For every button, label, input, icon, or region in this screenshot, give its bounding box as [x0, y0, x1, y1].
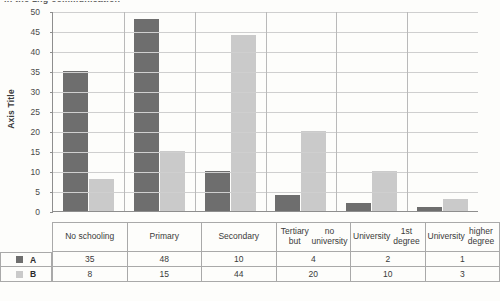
y-axis-tick-label: 30: [16, 87, 40, 97]
y-axis-tick-mark: [50, 12, 53, 13]
table-cell: 15: [127, 267, 202, 282]
chart-page: in the 1ng communication Axis Title 5045…: [0, 0, 500, 301]
y-axis-tick-mark: [50, 172, 53, 173]
category-header-cells: No schoolingPrimarySecondaryTertiary but…: [52, 222, 500, 252]
bar-series-b: [372, 171, 397, 211]
table-corner-cell: [0, 222, 52, 252]
category-separator: [407, 12, 408, 211]
bar-chart: Axis Title 50454035302520151050: [0, 12, 500, 224]
y-axis-tick-mark: [50, 72, 53, 73]
category-separator: [124, 12, 125, 211]
table-cell: 48: [127, 252, 202, 267]
bar-series-b: [231, 35, 256, 211]
bar-series-a: [346, 203, 371, 211]
series-name: A: [30, 255, 36, 265]
y-axis-tick-label: 40: [16, 47, 40, 57]
bar-series-a: [205, 171, 230, 211]
y-axis-tick-mark: [50, 92, 53, 93]
cut-off-title-fragment: in the 1ng communication: [4, 0, 120, 4]
category-header-cell: University1st degree: [350, 222, 425, 252]
category-header-cell: No schooling: [52, 222, 127, 252]
table-cell: 4: [276, 252, 351, 267]
category-header-cell: Tertiary butno university: [276, 222, 351, 252]
table-cell: 10: [201, 252, 276, 267]
legend-key-cell: A: [0, 252, 52, 267]
y-axis-tick-mark: [50, 132, 53, 133]
y-axis-tick-mark: [50, 32, 53, 33]
y-axis-tick-label: 35: [16, 67, 40, 77]
legend-key-cell: B: [0, 267, 52, 282]
value-cells: 354810421: [52, 252, 500, 267]
y-axis-tick-label: 50: [16, 7, 40, 17]
table-cell: 10: [350, 267, 425, 282]
data-table: No schoolingPrimarySecondaryTertiary but…: [0, 222, 500, 282]
table-cell: 1: [425, 252, 500, 267]
table-body: A354810421B8154420103: [0, 252, 500, 282]
bar-series-a: [417, 207, 442, 211]
y-axis-tick-label: 15: [16, 147, 40, 157]
y-axis-tick-label: 20: [16, 127, 40, 137]
table-header-row: No schoolingPrimarySecondaryTertiary but…: [0, 222, 500, 252]
category-separator: [195, 12, 196, 211]
table-cell: 2: [350, 252, 425, 267]
y-axis-title: Axis Title: [6, 74, 16, 144]
y-axis-tick-label: 25: [16, 107, 40, 117]
bar-series-a: [134, 19, 159, 211]
y-axis-tick-label: 0: [16, 207, 40, 217]
bar-series-b: [160, 151, 185, 211]
category-separator: [266, 12, 267, 211]
table-row: B8154420103: [0, 267, 500, 282]
category-separator: [336, 12, 337, 211]
y-axis-tick-mark: [50, 152, 53, 153]
series-name: B: [30, 269, 36, 279]
legend-swatch-icon: [16, 271, 23, 278]
y-axis-tick-label: 10: [16, 167, 40, 177]
table-cell: 35: [52, 252, 127, 267]
bar-series-b: [301, 131, 326, 211]
table-cell: 20: [276, 267, 351, 282]
table-cell: 44: [201, 267, 276, 282]
table-cell: 8: [52, 267, 127, 282]
y-axis-tick-label: 45: [16, 27, 40, 37]
y-axis-tick-mark: [50, 52, 53, 53]
table-cell: 3: [425, 267, 500, 282]
bar-series-a: [275, 195, 300, 211]
plot-area: [52, 12, 478, 212]
category-header-cell: Universityhigher degree: [425, 222, 500, 252]
legend-swatch-icon: [16, 256, 23, 263]
value-cells: 8154420103: [52, 267, 500, 282]
bar-series-b: [443, 199, 468, 211]
category-header-cell: Primary: [127, 222, 202, 252]
category-header-cell: Secondary: [201, 222, 276, 252]
bar-series-b: [89, 179, 114, 211]
y-axis-tick-mark: [50, 212, 53, 213]
y-axis-tick-mark: [50, 112, 53, 113]
table-row: A354810421: [0, 252, 500, 267]
y-axis-tick-labels: 50454035302520151050: [16, 12, 40, 212]
y-axis-tick-label: 5: [16, 187, 40, 197]
y-axis-tick-mark: [50, 192, 53, 193]
